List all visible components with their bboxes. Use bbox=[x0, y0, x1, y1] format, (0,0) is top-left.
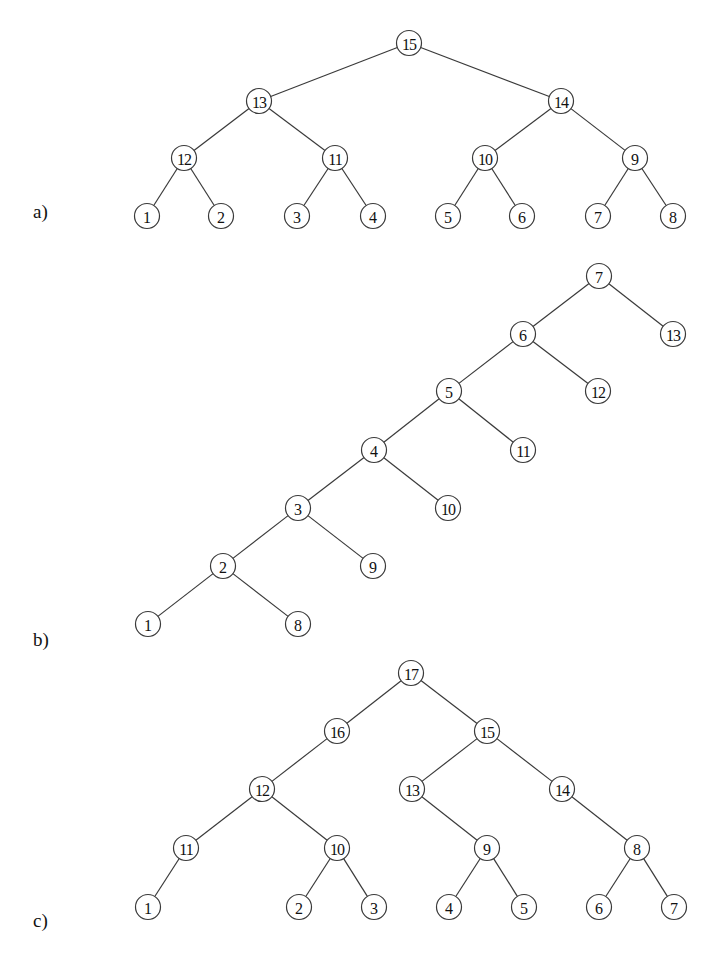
tree-edge bbox=[609, 284, 663, 327]
tree-c: 1716151213141110981234567c) bbox=[33, 661, 687, 933]
node-label: 11 bbox=[328, 151, 342, 168]
tree-edge bbox=[644, 859, 668, 897]
tree-edge bbox=[494, 859, 518, 897]
tree-edge bbox=[455, 169, 479, 206]
tree-edge bbox=[422, 797, 477, 841]
node-label: 14 bbox=[554, 94, 569, 111]
node-label: 5 bbox=[520, 900, 528, 917]
tree-node: 17 bbox=[399, 661, 424, 686]
node-label: 2 bbox=[217, 209, 225, 226]
tree-node: 11 bbox=[511, 438, 536, 463]
node-label: 10 bbox=[441, 501, 456, 518]
tree-edge bbox=[384, 458, 438, 501]
tree-edge bbox=[233, 574, 288, 617]
node-label: 13 bbox=[666, 327, 681, 344]
node-label: 8 bbox=[633, 841, 641, 858]
tree-edge bbox=[191, 169, 215, 206]
tree-node: 13 bbox=[400, 777, 425, 802]
tree-edge bbox=[306, 859, 330, 897]
tree-edge bbox=[533, 342, 588, 384]
tree-node: 10 bbox=[473, 146, 498, 171]
tree-edge bbox=[533, 284, 589, 327]
tree-node: 5 bbox=[436, 204, 461, 229]
tree-node: 4 bbox=[437, 895, 462, 920]
tree-node: 16 bbox=[325, 719, 350, 744]
tree-edge bbox=[421, 681, 477, 724]
node-label: 9 bbox=[631, 151, 639, 168]
tree-edge bbox=[495, 109, 551, 151]
node-label: 6 bbox=[519, 327, 527, 344]
tree-edge bbox=[194, 109, 249, 151]
node-label: 11 bbox=[179, 841, 193, 858]
tree-node: 12 bbox=[172, 146, 197, 171]
tree-node: 7 bbox=[586, 204, 611, 229]
node-label: 8 bbox=[294, 617, 302, 634]
tree-node: 14 bbox=[549, 89, 574, 114]
tree-edge bbox=[606, 859, 630, 897]
tree-edge bbox=[308, 458, 364, 501]
node-label: 9 bbox=[483, 841, 491, 858]
tree-edge bbox=[344, 859, 368, 897]
tree-edge bbox=[492, 169, 516, 206]
tree-edge bbox=[308, 516, 363, 559]
node-label: 7 bbox=[670, 900, 678, 917]
tree-edge bbox=[272, 797, 327, 841]
node-label: 15 bbox=[480, 724, 495, 741]
node-label: 16 bbox=[330, 724, 345, 741]
tree-node: 15 bbox=[475, 719, 500, 744]
node-label: 1 bbox=[144, 617, 152, 634]
tree-edge bbox=[571, 109, 625, 151]
tree-node: 10 bbox=[325, 836, 350, 861]
tree-edge bbox=[347, 681, 401, 724]
tree-node: 15 bbox=[397, 31, 422, 56]
tree-edge bbox=[196, 797, 252, 841]
tree-node: 2 bbox=[287, 895, 312, 920]
node-label: 10 bbox=[478, 151, 493, 168]
tree-edge bbox=[422, 739, 477, 782]
tree-edge bbox=[269, 109, 325, 151]
node-label: 3 bbox=[294, 501, 302, 518]
tree-edge bbox=[459, 399, 513, 442]
node-label: 11 bbox=[516, 443, 530, 460]
tree-a: 151314121110912345678a) bbox=[33, 31, 686, 229]
node-label: 2 bbox=[295, 900, 303, 917]
tree-node: 6 bbox=[587, 895, 612, 920]
tree-node: 3 bbox=[285, 204, 310, 229]
node-label: 5 bbox=[444, 209, 452, 226]
tree-edge bbox=[272, 739, 327, 782]
node-label: 7 bbox=[595, 269, 603, 286]
tree-node: 11 bbox=[174, 836, 199, 861]
tree-edge bbox=[642, 168, 666, 205]
tree-node: 3 bbox=[362, 895, 387, 920]
tree-node: 8 bbox=[625, 836, 650, 861]
tree-edge bbox=[271, 48, 398, 97]
tree-node: 4 bbox=[361, 204, 386, 229]
node-label: 4 bbox=[369, 209, 377, 226]
tree-node: 2 bbox=[209, 204, 234, 229]
node-label: 8 bbox=[669, 209, 677, 226]
tree-node: 9 bbox=[623, 146, 648, 171]
tree-edge bbox=[155, 859, 179, 897]
tree-edge bbox=[572, 797, 627, 841]
node-label: 15 bbox=[402, 36, 417, 53]
node-label: 1 bbox=[144, 900, 152, 917]
tree-node: 14 bbox=[550, 777, 575, 802]
tree-edge bbox=[154, 169, 178, 206]
panel-label-c: c) bbox=[33, 910, 48, 932]
node-label: 4 bbox=[370, 443, 378, 460]
tree-node: 2 bbox=[211, 554, 236, 579]
tree-node: 1 bbox=[135, 204, 160, 229]
tree-node: 13 bbox=[661, 322, 686, 347]
node-label: 12 bbox=[177, 151, 192, 168]
node-label: 7 bbox=[594, 209, 602, 226]
node-label: 4 bbox=[445, 900, 453, 917]
node-label: 5 bbox=[445, 384, 453, 401]
tree-edge bbox=[342, 168, 366, 205]
node-label: 3 bbox=[370, 900, 378, 917]
tree-node: 12 bbox=[586, 379, 611, 404]
tree-edge bbox=[456, 859, 480, 897]
tree-node: 9 bbox=[475, 836, 500, 861]
tree-edge bbox=[421, 47, 550, 96]
node-label: 3 bbox=[293, 209, 301, 226]
tree-node: 6 bbox=[510, 204, 535, 229]
